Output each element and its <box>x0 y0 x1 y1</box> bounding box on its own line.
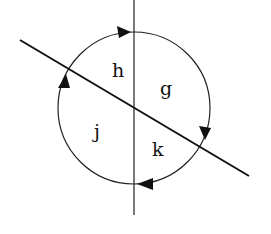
arrow-bottom-left-icon <box>137 178 153 190</box>
arrow-top-right-icon <box>117 26 131 38</box>
region-label-k: k <box>152 138 164 160</box>
region-label-j: j <box>92 120 100 142</box>
arrow-left-up-icon <box>58 74 70 88</box>
arrow-right-down-icon <box>199 126 211 140</box>
region-label-g: g <box>160 77 172 99</box>
region-label-h: h <box>112 59 124 81</box>
diagram-canvas: h g j k <box>0 0 271 234</box>
